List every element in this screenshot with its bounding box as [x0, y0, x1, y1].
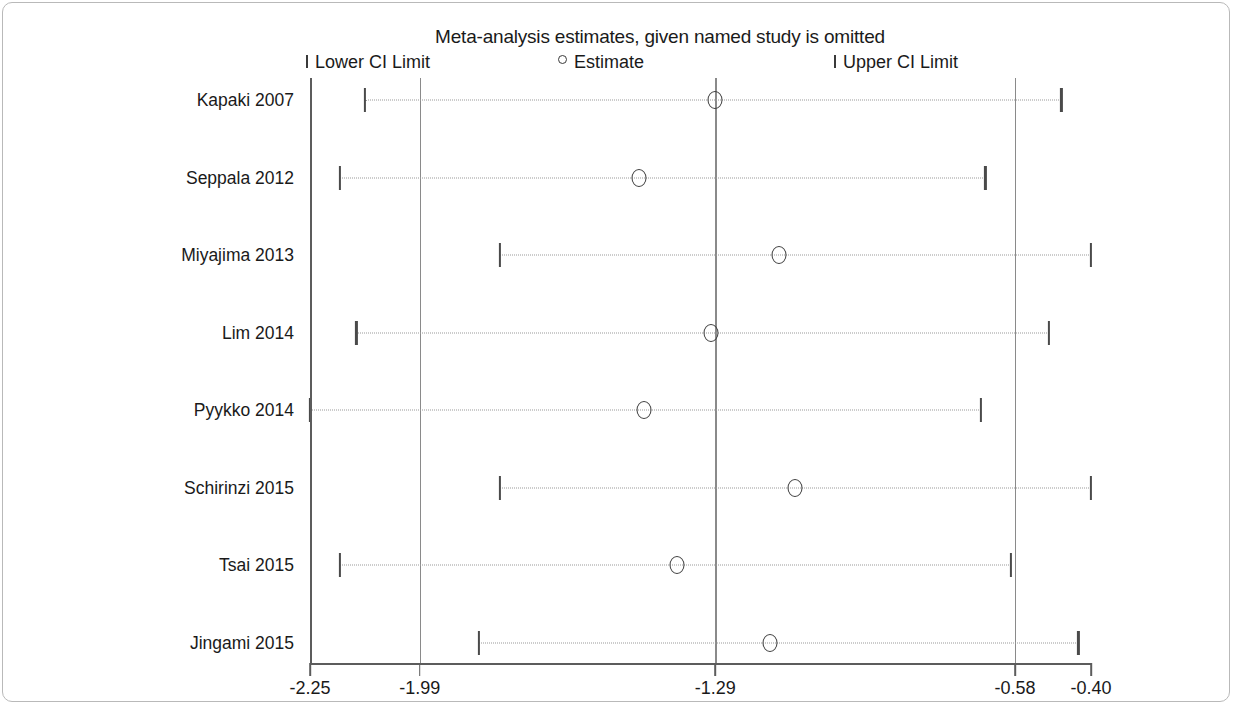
- estimate-marker: [763, 634, 778, 652]
- x-axis-tick: [1090, 663, 1092, 676]
- y-axis-labels: Kapaki 2007Seppala 2012Miyajima 2013Lim …: [92, 0, 294, 706]
- upper-ci-cap: [984, 166, 986, 190]
- x-axis-tick-label: -0.58: [994, 678, 1035, 699]
- lower-ci-cap: [499, 476, 501, 500]
- reference-line: [420, 78, 421, 663]
- x-axis-tick-label: -1.99: [399, 678, 440, 699]
- reference-line: [715, 78, 716, 663]
- y-axis-line: [310, 78, 312, 663]
- confidence-interval-line: [500, 255, 1091, 256]
- estimate-marker: [670, 556, 685, 574]
- confidence-interval-line: [340, 177, 986, 178]
- confidence-interval-line: [479, 643, 1078, 644]
- x-axis-tick: [309, 663, 311, 676]
- y-axis-label: Tsai 2015: [94, 555, 294, 576]
- y-axis-label: Kapaki 2007: [94, 90, 294, 111]
- y-axis-label: Miyajima 2013: [94, 245, 294, 266]
- lower-ci-cap: [364, 88, 366, 112]
- upper-ci-cap: [1090, 243, 1092, 267]
- estimate-marker: [704, 324, 719, 342]
- x-axis-tick: [1014, 663, 1016, 676]
- lower-ci-cap: [478, 631, 480, 655]
- lower-ci-cap: [499, 243, 501, 267]
- upper-ci-cap: [1060, 88, 1062, 112]
- upper-ci-cap: [1090, 476, 1092, 500]
- reference-line: [1015, 78, 1016, 663]
- estimate-marker: [636, 401, 651, 419]
- plot-area: Kapaki 2007Seppala 2012Miyajima 2013Lim …: [0, 0, 1234, 706]
- influence-plot-figure: Meta-analysis estimates, given named stu…: [0, 0, 1234, 706]
- y-axis-label: Jingami 2015: [94, 633, 294, 654]
- y-axis-label: Lim 2014: [94, 322, 294, 343]
- estimate-marker: [788, 479, 803, 497]
- y-axis-label: Schirinzi 2015: [94, 477, 294, 498]
- x-axis-tick-label: -2.25: [289, 678, 330, 699]
- upper-ci-cap: [1077, 631, 1079, 655]
- lower-ci-cap: [338, 166, 340, 190]
- x-axis-tick: [714, 663, 716, 676]
- upper-ci-cap: [1048, 321, 1050, 345]
- y-axis-label: Seppala 2012: [94, 167, 294, 188]
- lower-ci-cap: [338, 553, 340, 577]
- x-axis-tick: [419, 663, 421, 676]
- upper-ci-cap: [980, 398, 982, 422]
- upper-ci-cap: [1010, 553, 1012, 577]
- x-axis-tick-label: -1.29: [695, 678, 736, 699]
- estimate-marker: [708, 91, 723, 109]
- estimate-marker: [632, 169, 647, 187]
- x-axis-line: [310, 663, 1091, 665]
- estimate-marker: [771, 246, 786, 264]
- lower-ci-cap: [355, 321, 357, 345]
- y-axis-label: Pyykko 2014: [94, 400, 294, 421]
- x-axis-tick-label: -0.40: [1070, 678, 1111, 699]
